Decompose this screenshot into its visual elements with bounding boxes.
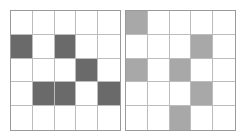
right-grid-cell-4-3 [191,106,213,130]
left-grid-cell-3-0 [11,82,33,106]
left-grid-cell-4-3 [76,106,98,130]
left-grid-cell-3-2-filled [55,82,77,106]
left-grid-cell-0-4 [98,11,120,35]
left-grid-cell-0-3 [76,11,98,35]
right-grid-cell-4-4 [213,106,235,130]
right-grid [125,10,236,131]
right-grid-cell-2-3 [191,59,213,83]
left-grid-cell-3-3 [76,82,98,106]
right-grid-cell-0-0-filled [126,11,148,35]
right-grid-cell-4-2-filled [170,106,192,130]
left-grid-cell-1-1 [33,35,55,59]
left-grid-cell-3-4-filled [98,82,120,106]
right-grid-cell-3-3-filled [191,82,213,106]
left-grid-cell-1-4 [98,35,120,59]
right-grid-cell-0-1 [148,11,170,35]
right-grid-cell-0-4 [213,11,235,35]
right-grid-cell-1-2 [170,35,192,59]
left-grid-cell-2-2 [55,59,77,83]
right-grid-cell-0-3 [191,11,213,35]
left-grid-cell-4-4 [98,106,120,130]
right-grid-cell-1-3-filled [191,35,213,59]
right-grid-cell-2-1 [148,59,170,83]
right-grid-cell-1-4 [213,35,235,59]
right-grid-cell-2-2-filled [170,59,192,83]
right-grid-cell-4-1 [148,106,170,130]
right-grid-cell-2-0-filled [126,59,148,83]
left-grid-cell-2-0 [11,59,33,83]
right-grid-cell-0-2 [170,11,192,35]
left-grid [10,10,121,131]
left-grid-cell-1-2-filled [55,35,77,59]
right-grid-cell-3-0 [126,82,148,106]
left-grid-cell-3-1-filled [33,82,55,106]
left-grid-cell-0-2 [55,11,77,35]
right-grid-cell-4-0 [126,106,148,130]
left-grid-cell-1-3 [76,35,98,59]
right-grid-cell-3-4 [213,82,235,106]
left-grid-cell-0-1 [33,11,55,35]
left-grid-cell-0-0 [11,11,33,35]
left-grid-cell-2-4 [98,59,120,83]
left-grid-cell-1-0-filled [11,35,33,59]
left-grid-cell-4-0 [11,106,33,130]
right-grid-cell-3-2 [170,82,192,106]
right-grid-cell-2-4 [213,59,235,83]
right-grid-cell-3-1 [148,82,170,106]
left-grid-cell-2-3-filled [76,59,98,83]
left-grid-cell-4-2 [55,106,77,130]
left-grid-cell-2-1 [33,59,55,83]
right-grid-cell-1-1 [148,35,170,59]
right-grid-cell-1-0 [126,35,148,59]
left-grid-cell-4-1 [33,106,55,130]
